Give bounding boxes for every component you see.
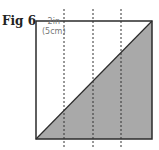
folded-square-diagram <box>0 0 159 150</box>
dimension-label: 2in (5cm) <box>42 17 66 37</box>
dimension-inches: 2in <box>42 17 66 27</box>
dimension-cm: (5cm) <box>42 27 66 37</box>
